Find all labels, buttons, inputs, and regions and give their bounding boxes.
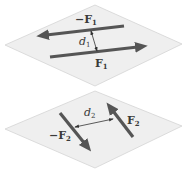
couples-diagram: −F1 d1 F1 d2 F2 −F2: [0, 0, 191, 177]
bottom-plane-group: d2 F2 −F2: [5, 91, 182, 168]
top-plane-group: −F1 d1 F1: [5, 5, 182, 86]
bottom-plane: [5, 91, 182, 168]
